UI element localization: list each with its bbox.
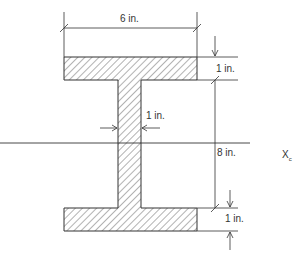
i-beam-section <box>64 57 197 231</box>
top-flange-thickness-label: 1 in. <box>216 63 235 74</box>
top-flange-thickness-dimension: 1 in. <box>197 36 238 80</box>
bottom-flange-thickness-dimension: 1 in. <box>197 190 244 250</box>
web-height-dimension: 8 in. <box>211 76 236 212</box>
axis-label: Xc <box>282 149 292 162</box>
flange-width-label: 6 in. <box>120 13 139 24</box>
flange-width-dimension: 6 in. <box>60 12 201 57</box>
i-beam-outline <box>64 57 197 231</box>
web-height-label: 8 in. <box>217 147 236 158</box>
i-beam-diagram: Xc 6 in. 1 in. 8 in. 1 in. <box>0 0 302 264</box>
bottom-flange-thickness-label: 1 in. <box>225 213 244 224</box>
web-thickness-label: 1 in. <box>146 110 165 121</box>
